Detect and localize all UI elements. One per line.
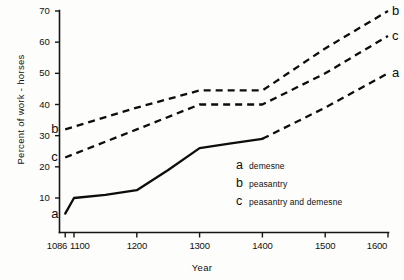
x-tick-label: 1600	[360, 240, 394, 251]
legend-key-c: c	[236, 194, 249, 208]
x-tick-label: 1500	[303, 240, 347, 251]
legend-label-c: peasantry and demesne	[249, 197, 342, 207]
legend-key-a: a	[236, 158, 249, 172]
y-tick-label: 30	[28, 130, 50, 141]
y-tick-label: 40	[28, 99, 50, 110]
y-tick-label: 60	[28, 36, 50, 47]
y-tick-label: 10	[28, 192, 50, 203]
legend-item-c: c peasantry and demesne	[236, 194, 342, 207]
y-tick-label: 20	[28, 161, 50, 172]
series-start-label-b: b	[51, 122, 58, 135]
y-tick-label: 70	[28, 5, 50, 16]
legend-label-b: peasantry	[249, 179, 287, 189]
x-tick-label: 1086	[35, 240, 67, 251]
series-line-c	[65, 36, 388, 158]
series-start-label-a: a	[51, 207, 58, 220]
legend-item-b: b peasantry	[236, 176, 342, 189]
y-axis-title: Percent of work - horses	[15, 40, 26, 180]
x-tick-label: 1200	[115, 240, 159, 251]
plot-area	[0, 0, 404, 280]
x-tick-label: 1100	[70, 240, 104, 251]
y-tick-label: 50	[28, 67, 50, 78]
series-end-label-a: a	[392, 66, 399, 79]
legend: a demesne b peasantry c peasantry and de…	[236, 158, 342, 212]
series-line-a-solid	[65, 139, 262, 214]
series-end-label-b: b	[392, 4, 399, 17]
legend-label-a: demesne	[249, 161, 285, 171]
series-line-a-dashed	[262, 73, 388, 138]
series-end-label-c: c	[392, 29, 399, 42]
legend-item-a: a demesne	[236, 158, 342, 171]
x-tick-label: 1400	[240, 240, 284, 251]
x-axis-title: Year	[0, 262, 404, 273]
legend-key-b: b	[236, 176, 249, 190]
chart-container: 10203040506070 1086110012001300140015001…	[0, 0, 404, 280]
series-start-label-c: c	[51, 150, 58, 163]
series-line-b	[65, 11, 388, 129]
x-tick-label: 1300	[178, 240, 222, 251]
